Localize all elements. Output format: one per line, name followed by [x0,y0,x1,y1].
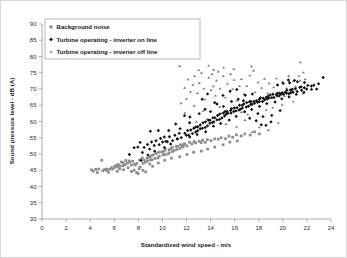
data-point [253,130,256,133]
y-tick-label: 70 [30,86,37,92]
x-tick-label: 18 [255,225,262,231]
data-point [240,135,243,138]
x-tick-label: 20 [279,225,286,231]
y-tick-label: 60 [30,119,37,125]
data-point [168,151,171,154]
data-point [96,171,99,174]
data-point [94,168,97,171]
data-point [236,140,239,143]
data-point [146,160,149,163]
data-point [228,135,231,138]
data-point [170,157,173,160]
data-point [158,155,161,158]
scatter-plot: 30354045505560657075808590 0246810121416… [1,1,347,258]
x-tick-label: 14 [207,225,214,231]
data-point [217,138,220,141]
data-point [178,147,181,150]
data-point [146,157,149,160]
data-point [160,150,163,153]
data-point [119,165,122,168]
x-tick-label: 12 [183,225,190,231]
data-point [231,136,234,139]
legend-label: Background noise [57,23,111,30]
data-point [249,134,252,137]
data-point [92,170,95,173]
data-point [151,158,154,161]
data-point [200,150,203,153]
data-point [191,143,194,146]
data-point [173,149,176,152]
data-point [131,160,134,163]
data-point [124,163,127,166]
data-point [171,146,174,149]
data-point [200,141,203,144]
data-point [186,145,189,148]
data-point [107,171,110,174]
data-point [175,148,178,151]
data-point [194,142,197,145]
data-point [133,169,136,172]
data-point [243,133,246,136]
y-tick-label: 35 [30,200,37,206]
legend-label: Turbine operating - inverter on line [57,36,158,43]
data-point [210,139,213,142]
data-point [182,145,185,148]
data-point [130,164,133,167]
data-point [213,138,216,141]
data-point [122,168,125,171]
data-point [186,153,189,156]
data-point [151,165,154,168]
data-point [124,159,127,162]
data-point [213,146,216,149]
data-point [127,166,130,169]
chart-legend: Background noiseTurbine operating - inve… [45,19,200,59]
y-tick-label: 50 [30,151,37,157]
y-axis-title: Sound pressure level - dB (A) [8,78,15,165]
y-tick-label: 80 [30,54,37,60]
data-point [111,168,114,171]
y-tick-label: 75 [30,70,37,76]
data-point [164,153,167,156]
data-point [148,163,151,166]
y-tick-label: 85 [30,37,37,43]
data-point [100,159,103,162]
y-tick-label: 65 [30,102,37,108]
data-point [154,157,157,160]
data-point [201,139,204,142]
data-point [224,137,227,140]
data-point [155,152,158,155]
y-tick-label: 90 [30,21,37,27]
data-point [128,161,131,164]
data-point [106,168,109,171]
data-point [142,169,145,172]
data-point [163,159,166,162]
legend-marker-square [50,25,53,28]
data-point [220,136,223,139]
data-point [206,148,209,151]
data-point [139,166,142,169]
data-point [188,141,191,144]
data-point [157,162,160,165]
data-point [228,141,231,144]
data-point [235,133,238,136]
data-point [144,171,147,174]
data-point [258,133,261,136]
x-tick-label: 10 [159,225,166,231]
x-axis-title: Standardized wind speed - m/s [141,241,232,248]
data-point [137,172,140,175]
y-tick-label: 40 [30,184,37,190]
data-point [116,170,119,173]
data-point [130,170,133,173]
data-point [192,151,195,154]
y-tick-label: 55 [30,135,37,141]
data-point [152,154,155,157]
data-point [178,155,181,158]
data-point [158,151,161,154]
data-point [222,143,225,146]
x-tick-label: 22 [304,225,311,231]
data-point [134,164,137,167]
legend-label: Turbine operating - inverter off line [57,48,158,55]
data-point [97,168,100,171]
data-point [206,138,209,141]
data-point [204,141,207,144]
